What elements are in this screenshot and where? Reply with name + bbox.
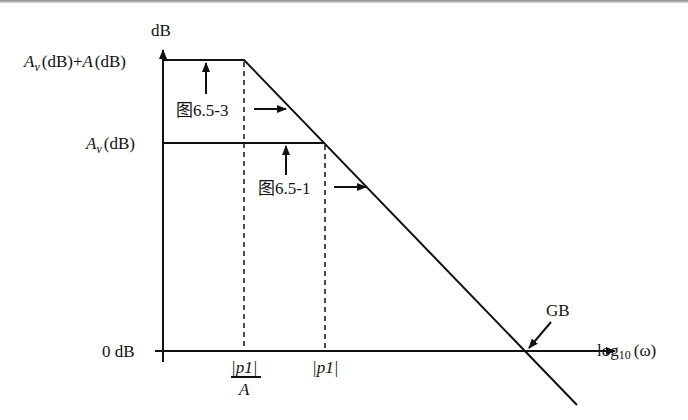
tick-p1-over-A-denominator: A: [238, 380, 250, 399]
bode-plot: dB Av(dB)+A(dB) Av(dB) 0 dB 图6.5-3 图6.5-…: [0, 0, 688, 420]
tick-p1-over-A-numerator: |p1|: [231, 358, 257, 377]
tick-p1: |p1|: [312, 358, 338, 377]
level-top-label: Av(dB)+A(dB): [23, 52, 126, 74]
arrow-gb: [529, 322, 551, 348]
y-axis-label: dB: [151, 21, 171, 40]
annotation-fig-6-5-1: 图6.5-1: [258, 179, 310, 198]
annotation-fig-6-5-3: 图6.5-3: [176, 101, 228, 120]
level-mid-label: Av(dB): [85, 134, 135, 156]
annotation-gb: GB: [546, 301, 570, 320]
x-axis-label: log10(ω): [597, 341, 656, 362]
level-zero-label: 0 dB: [102, 342, 135, 361]
